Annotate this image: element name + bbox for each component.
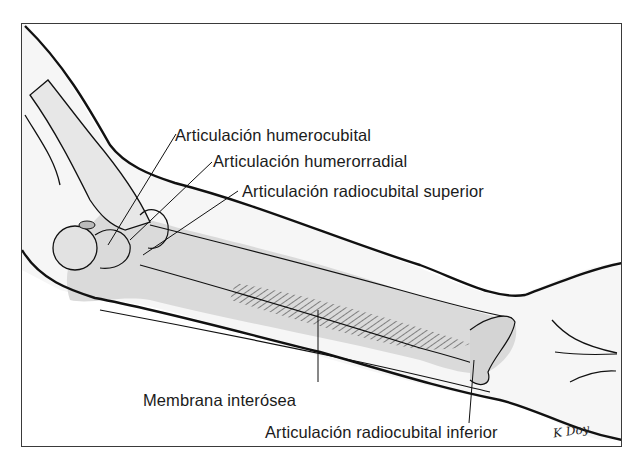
label-articulacion-humerocubital: Articulación humerocubital bbox=[175, 127, 371, 144]
label-membrana-interosea: Membrana interósea bbox=[143, 392, 296, 409]
label-articulacion-radiocubital-inferior: Articulación radiocubital inferior bbox=[265, 424, 498, 441]
forearm-illustration bbox=[0, 0, 639, 466]
label-articulacion-radiocubital-superior: Articulación radiocubital superior bbox=[242, 183, 484, 200]
label-articulacion-humerorradial: Articulación humerorradial bbox=[213, 153, 407, 170]
anatomical-figure: Articulación humerocubital Articulación … bbox=[0, 0, 639, 466]
